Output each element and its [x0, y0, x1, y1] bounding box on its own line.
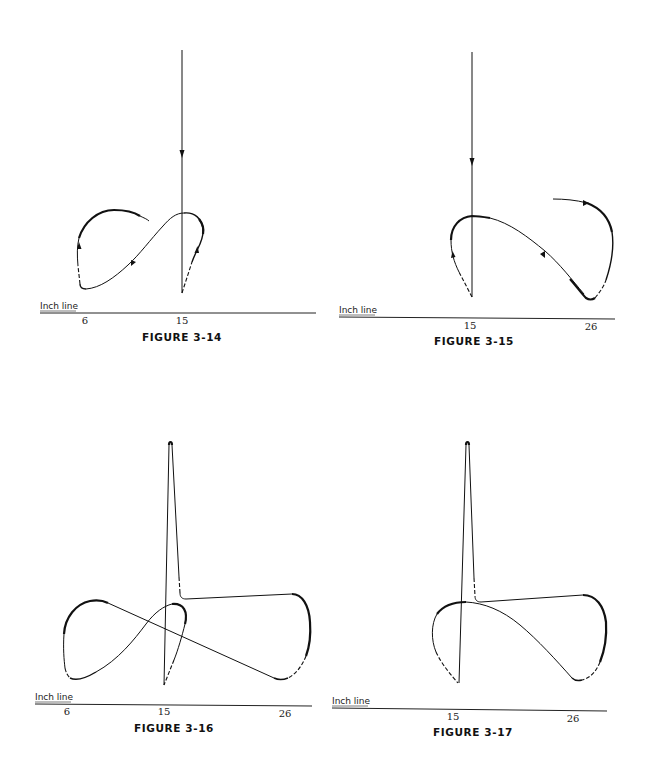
- tick-label-15: 15: [447, 711, 460, 722]
- right-side-dashed: [595, 280, 606, 298]
- figure-3-17: Inch line 15 26 FIGURE 3-17: [332, 442, 607, 738]
- arrow-right-icon: [583, 200, 589, 206]
- bottom-turn: [570, 279, 595, 300]
- s-curve: [86, 213, 184, 289]
- tick-label-15: 15: [158, 706, 171, 717]
- spike-down-dashed: [474, 578, 475, 596]
- spike-up: [459, 445, 466, 683]
- figure-3-16: Inch line 6 15 26 FIGURE 3-16: [35, 442, 312, 734]
- arrow-downleft-icon: [131, 260, 136, 266]
- left-loop-dashed: [436, 652, 458, 683]
- spike-corner: [180, 593, 186, 599]
- spike-down: [469, 445, 474, 578]
- inch-line-label: Inch line: [40, 301, 79, 311]
- right-loop-dashed: [182, 262, 192, 293]
- inch-line-label: Inch line: [332, 696, 371, 706]
- spike-corner: [475, 596, 481, 602]
- figure-page: Inch line 6 15 FIGURE 3-14 Inch line 15 …: [0, 0, 647, 782]
- figure-caption: FIGURE 3-16: [134, 722, 214, 734]
- figure-3-14: Inch line 6 15 FIGURE 3-14: [40, 50, 316, 343]
- tick-label-6: 6: [82, 315, 88, 326]
- right-loop-bottom: [572, 678, 582, 680]
- arrow-down-icon: [470, 158, 475, 166]
- tick-label-6: 6: [64, 706, 70, 717]
- inch-line: [35, 704, 312, 706]
- right-loop-dashed: [288, 656, 306, 678]
- figure-caption: FIGURE 3-17: [433, 726, 513, 738]
- inch-line-label: Inch line: [35, 692, 74, 702]
- tick-label-15: 15: [176, 315, 189, 326]
- right-side: [606, 232, 613, 280]
- descending-curve: [466, 602, 572, 678]
- left-loop-side: [64, 634, 65, 668]
- tick-label-26: 26: [567, 713, 580, 724]
- arrow-down-icon: [180, 150, 185, 158]
- left-loop-dashed: [459, 272, 472, 297]
- inch-line-label: Inch line: [339, 305, 378, 315]
- left-loop-top: [451, 216, 490, 240]
- arrow-downright-icon: [540, 251, 545, 258]
- spike-tip: [466, 442, 469, 445]
- left-loop-side: [77, 238, 79, 266]
- descending-curve: [490, 218, 584, 294]
- horizontal-stroke: [186, 594, 292, 599]
- tick-label-15: 15: [464, 320, 477, 331]
- figure-3-15: Inch line 15 26 FIGURE 3-15: [339, 52, 615, 347]
- right-top: [587, 203, 612, 232]
- tick-label-26: 26: [585, 321, 598, 332]
- left-loop-top: [64, 600, 108, 634]
- right-loop-dashed: [582, 662, 600, 680]
- left-loop-dashed: [78, 266, 80, 284]
- right-loop-bottom: [274, 678, 288, 680]
- small-loop-dashed: [164, 660, 174, 685]
- left-loop-dashed: [65, 668, 70, 678]
- inch-line: [332, 708, 607, 711]
- right-loop-top: [583, 595, 606, 662]
- right-loop-top: [292, 594, 310, 656]
- figure-caption: FIGURE 3-14: [142, 331, 222, 343]
- horizontal-stroke: [481, 595, 583, 602]
- left-loop-bottom: [80, 284, 86, 289]
- right-top-end: [553, 199, 587, 203]
- tick-label-26: 26: [279, 708, 292, 719]
- left-loop-top: [79, 210, 140, 238]
- left-loop-side: [432, 614, 437, 652]
- spike-down: [172, 445, 179, 577]
- right-loop-top: [199, 219, 203, 234]
- spike-up: [164, 445, 169, 685]
- left-loop-end: [140, 216, 149, 221]
- small-loop-top: [172, 604, 186, 624]
- small-loop-side: [174, 624, 185, 660]
- inch-line: [339, 317, 615, 319]
- spike-tip: [169, 442, 172, 445]
- spike-down-dashed: [179, 577, 180, 593]
- figure-caption: FIGURE 3-15: [434, 335, 514, 347]
- left-loop-bottom: [70, 672, 96, 679]
